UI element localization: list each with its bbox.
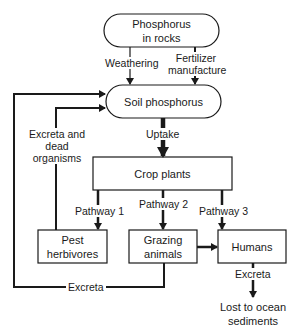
crops-label: Crop plants	[93, 167, 232, 181]
grazing-label-line2: animals	[129, 247, 197, 261]
pathway3-label: Pathway 3	[197, 205, 250, 217]
excreta-dead-line3: organisms	[27, 152, 87, 164]
fertilizer-label: Fertilizer manufacture	[166, 52, 226, 76]
pathway1-label: Pathway 1	[73, 205, 126, 217]
pests-label-line1: Pest	[38, 233, 107, 247]
fertilizer-label-line2: manufacture	[166, 64, 226, 76]
excreta-bottom-label: Excreta	[66, 281, 106, 293]
humans-label: Humans	[218, 240, 286, 254]
grazing-label-line1: Grazing	[129, 233, 197, 247]
ocean-label-line1: Lost to ocean	[208, 300, 298, 314]
pathway2-label: Pathway 2	[137, 198, 190, 210]
ocean-label: Lost to ocean sediments	[208, 300, 298, 328]
rocks-label: Phosphorus in rocks	[104, 17, 219, 45]
ocean-label-line2: sediments	[208, 314, 298, 328]
fertilizer-label-line1: Fertilizer	[174, 52, 218, 64]
excreta-humans-label: Excreta	[233, 268, 273, 280]
weathering-label: Weathering	[103, 57, 161, 69]
excreta-dead-line2: dead	[43, 140, 70, 152]
excreta-dead-label: Excreta and dead organisms	[27, 128, 87, 164]
phosphorus-cycle-diagram: Phosphorus in rocks Soil phosphorus Crop…	[0, 0, 298, 328]
rocks-label-line1: Phosphorus	[104, 17, 219, 31]
pests-label-line2: herbivores	[38, 247, 107, 261]
grazing-label: Grazing animals	[129, 233, 197, 261]
pests-label: Pest herbivores	[38, 233, 107, 261]
excreta-dead-line1: Excreta and	[27, 128, 87, 140]
rocks-label-line2: in rocks	[104, 31, 219, 45]
soil-label: Soil phosphorus	[106, 95, 221, 109]
uptake-label: Uptake	[144, 128, 181, 140]
